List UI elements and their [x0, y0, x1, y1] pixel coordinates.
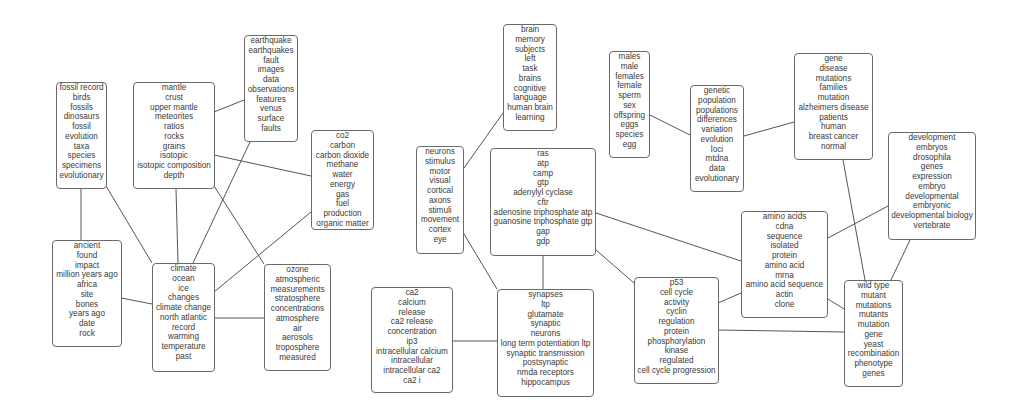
edge-line — [891, 240, 910, 280]
edge-line — [214, 100, 244, 112]
topic-term: mutants — [845, 310, 902, 320]
topic-node-carbon-cycle: co2carboncarbon dioxidemethanewaterenerg… — [311, 130, 374, 230]
topic-term: actin — [742, 290, 827, 300]
topic-term: cyclin — [635, 307, 718, 317]
topic-node-neuroscience-sensory: neuronsstimulusmotorvisualcorticalaxonss… — [416, 146, 464, 254]
topic-term: warming — [153, 332, 214, 342]
topic-term: venus — [245, 104, 297, 114]
topic-term: fuel — [312, 199, 373, 209]
topic-term: memory — [504, 35, 556, 45]
topic-node-calcium: ca2calciumreleaseca2 releaseconcentratio… — [371, 287, 453, 393]
topic-node-cell-cycle: p53cell cycleactivitycyclinregulationpro… — [634, 277, 719, 384]
topic-term: ancient — [53, 241, 121, 251]
topic-term: site — [53, 290, 121, 300]
topic-node-cognition: brainmemorysubjectslefttaskbrainscogniti… — [503, 24, 557, 131]
topic-term: ozone — [265, 265, 330, 275]
topic-term: gdp — [491, 237, 595, 247]
topic-term: water — [312, 170, 373, 180]
topic-term: gas — [312, 190, 373, 200]
edge-line — [596, 213, 741, 261]
topic-term: taxa — [57, 142, 106, 152]
topic-term: sequence — [742, 232, 827, 242]
edge-line — [596, 250, 634, 283]
topic-term: data — [691, 164, 743, 174]
topic-term: egg — [610, 140, 649, 150]
edge-line — [214, 155, 311, 176]
edge-line — [176, 189, 178, 263]
topic-term: isolated — [742, 241, 827, 251]
topic-node-molecular: amino acidscdnasequenceisolatedproteinam… — [741, 211, 828, 318]
topic-term: synapses — [498, 290, 593, 300]
topic-term: motor — [417, 167, 463, 177]
edge-line — [121, 298, 152, 304]
topic-term: genetic — [691, 86, 743, 96]
topic-term: fossil record — [57, 83, 106, 93]
topic-term: females — [610, 72, 649, 82]
topic-term: ocean — [153, 274, 214, 284]
topic-term: learning — [504, 113, 556, 123]
topic-term: embryo — [889, 182, 975, 192]
topic-term: sperm — [610, 91, 649, 101]
topic-term: climate change — [153, 303, 214, 313]
topic-term: variation — [691, 125, 743, 135]
topic-term: sex — [610, 101, 649, 111]
topic-term: cftr — [491, 198, 595, 208]
topic-term: measurements — [265, 285, 330, 295]
topic-term: specimens — [57, 161, 106, 171]
topic-term: female — [610, 81, 649, 91]
edge-line — [719, 330, 844, 332]
topic-term: upper mantle — [134, 103, 214, 113]
topic-node-paleontology: fossil recordbirdsfossilsdinosaursfossil… — [56, 82, 107, 189]
topic-term: cognitive — [504, 84, 556, 94]
topic-term: phosphorylation — [635, 337, 718, 347]
topic-term: mutations — [795, 74, 872, 84]
topic-term: release — [372, 308, 452, 318]
topic-term: nmda receptors — [498, 368, 593, 378]
topic-term: regulation — [635, 317, 718, 327]
topic-term: rocks — [134, 132, 214, 142]
topic-node-atmosphere: ozoneatmosphericmeasurementsstratosphere… — [264, 264, 331, 371]
topic-term: earthquake — [245, 36, 297, 46]
topic-term: wild type — [845, 281, 902, 291]
topic-term: embryonic — [889, 201, 975, 211]
topic-term: troposphere — [265, 343, 330, 353]
topic-term: carbon — [312, 141, 373, 151]
topic-term: movement — [417, 215, 463, 225]
topic-term: embryos — [889, 143, 975, 153]
topic-term: language — [504, 93, 556, 103]
topic-term: ca2 release — [372, 317, 452, 327]
topic-term: isotopic composition — [134, 161, 214, 171]
topic-term: guanosine triphosphate gtp — [491, 217, 595, 227]
topic-term: fault — [245, 56, 297, 66]
topic-term: intracellular calcium — [372, 347, 452, 357]
topic-term: atmospheric — [265, 275, 330, 285]
topic-term: subjects — [504, 45, 556, 55]
topic-term: neurons — [498, 329, 593, 339]
topic-node-synaptic: synapsesltpglutamatesynapticneuronslong … — [497, 289, 594, 397]
topic-term: genes — [845, 369, 902, 379]
edge-line — [718, 293, 741, 303]
topic-term: developmental biology — [889, 211, 975, 221]
topic-term: glutamate — [498, 310, 593, 320]
topic-term: temperature — [153, 342, 214, 352]
topic-term: recombination — [845, 349, 902, 359]
topic-term: populations — [691, 106, 743, 116]
topic-term: changes — [153, 293, 214, 303]
topic-node-sex: malesmalefemalesfemalespermsexoffspringe… — [609, 51, 650, 158]
topic-term: families — [795, 83, 872, 93]
topic-term: phenotype — [845, 359, 902, 369]
topic-term: past — [153, 352, 214, 362]
topic-term: normal — [795, 142, 872, 152]
topic-term: left — [504, 54, 556, 64]
topic-term: gap — [491, 227, 595, 237]
topic-term: bones — [53, 300, 121, 310]
topic-term: protein — [635, 327, 718, 337]
topic-term: production — [312, 209, 373, 219]
topic-node-geochemistry: mantlecrustupper mantlemeteoritesratiosr… — [133, 82, 215, 189]
topic-term: long term potentiation ltp — [498, 339, 593, 349]
topic-term: africa — [53, 280, 121, 290]
topic-term: earthquakes — [245, 46, 297, 56]
topic-term: genes — [889, 162, 975, 172]
topic-term: date — [53, 319, 121, 329]
topic-term: stimulus — [417, 157, 463, 167]
